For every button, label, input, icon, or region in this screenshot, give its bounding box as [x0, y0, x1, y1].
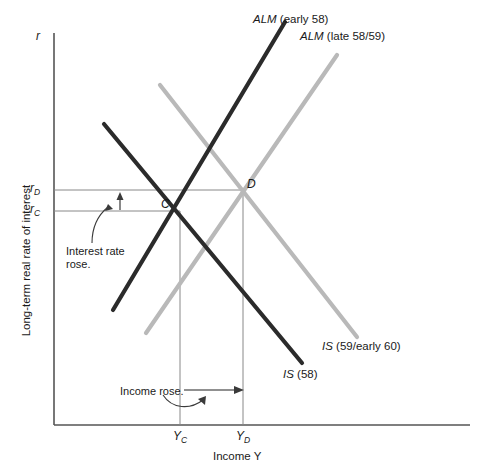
curve-label-alm-late-58-59-italic: ALM: [300, 30, 324, 42]
y-axis-symbol: r: [36, 30, 40, 44]
y-tick-rd-sub: D: [34, 187, 40, 197]
annotation-income-rose: Income rose.: [120, 385, 184, 398]
y-tick-rc-sub: C: [34, 208, 40, 218]
curve-label-alm-early-58-plain: (early 58): [277, 13, 329, 25]
curve-label-is-58-italic: IS: [283, 368, 294, 380]
y-tick-rc: rC: [30, 203, 40, 219]
x-tick-yd-sub: D: [244, 435, 250, 445]
x-tick-yd-base: Y: [236, 429, 244, 443]
point-label-d: D: [247, 178, 256, 192]
curve-label-alm-late-58-59-plain: (late 58/59): [324, 30, 385, 42]
interest-rate-curved-arrow: [92, 207, 108, 243]
x-tick-yc: YC: [173, 430, 187, 446]
curve-is-59-early-60: [160, 85, 357, 337]
curve-label-is-59-early-60: IS (59/early 60): [322, 340, 401, 353]
x-tick-yd: YD: [236, 430, 250, 446]
curve-label-alm-early-58: ALM (early 58): [253, 13, 328, 26]
curve-label-alm-late-58-59: ALM (late 58/59): [300, 30, 385, 43]
curve-label-is-59-early-60-plain: (59/early 60): [333, 340, 401, 352]
curve-label-is-59-early-60-italic: IS: [322, 340, 333, 352]
annotation-interest-rate-rose-line2: rose.: [66, 258, 125, 271]
curve-label-alm-early-58-italic: ALM: [253, 13, 277, 25]
annotation-interest-rate-rose: Interest rate rose.: [66, 245, 125, 270]
plot-area: [0, 0, 487, 467]
interest-rate-up-arrowhead: [117, 192, 124, 200]
income-rose-curved-arrowhead: [198, 396, 206, 405]
x-axis-title: Income Y: [213, 450, 261, 463]
x-tick-yc-sub: C: [181, 435, 187, 445]
point-label-c: C: [161, 198, 170, 212]
interest-rate-curved-arrowhead: [105, 204, 113, 211]
annotation-interest-rate-rose-line1: Interest rate: [66, 245, 125, 258]
curve-label-is-58: IS (58): [283, 368, 318, 381]
curve-label-is-58-plain: (58): [294, 368, 318, 380]
y-tick-rd: rD: [30, 182, 40, 198]
x-tick-yc-base: Y: [173, 429, 181, 443]
is-alm-diagram: r Long-term real rate of interest rD rC …: [0, 0, 487, 467]
